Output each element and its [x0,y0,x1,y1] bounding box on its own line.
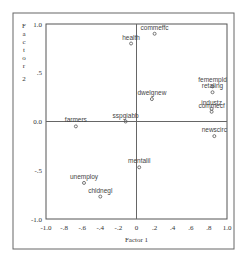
y-tick-label: .5 [37,69,43,77]
x-tick-label: .8 [206,224,212,232]
point-label: commeffc [141,24,170,31]
data-point: newscirc [202,126,228,138]
x-tick-label: -.6 [78,224,86,232]
circle-marker-icon [138,166,141,169]
data-point: dwelgnew [137,89,166,101]
x-tick-label: -.2 [115,224,123,232]
y-axis-title-char: t [23,46,25,54]
point-label: mentalil [128,157,151,164]
data-point: retaling [202,82,224,94]
x-tick-label: .6 [188,224,194,232]
y-tick-label: -1.0 [31,216,43,224]
data-point: chldnegl [88,187,113,199]
circle-marker-icon [211,91,214,94]
x-axis-title: Factor 1 [125,236,149,244]
point-label: dwelgnew [137,89,166,97]
x-tick-label: -1.0 [40,224,52,232]
point-label: unemploy [70,173,99,181]
circle-marker-icon [99,195,102,198]
data-point: commecf [198,102,225,114]
circle-marker-icon [83,181,86,184]
circle-marker-icon [150,98,153,101]
y-tick-label: -.5 [34,167,42,175]
data-point: health [122,34,140,46]
y-tick-label: 0.0 [33,118,42,126]
x-tick-label: 0 [135,224,139,232]
circle-marker-icon [74,125,77,128]
data-point: commeffc [141,24,170,36]
x-tick-label: -.4 [97,224,105,232]
point-label: health [122,34,140,41]
y-axis-title: Factor2 [22,22,26,83]
y-axis-title-char: F [22,22,26,30]
factor-plot: -1.0-.8-.6-.4-.20.2.4.6.81.0 1.0.50.0-.5… [0,0,250,265]
y-tick-label: 1.0 [33,21,42,29]
y-axis-title-char: a [22,30,26,38]
circle-marker-icon [153,32,156,35]
y-axis-ticks: 1.0.50.0-.5-1.0 [31,21,43,224]
x-axis-ticks: -1.0-.8-.6-.4-.20.2.4.6.81.0 [40,224,231,232]
x-tick-label: .4 [170,224,176,232]
point-label: farmers [65,116,88,123]
data-point: mentalil [128,157,151,169]
y-axis-title-char: c [22,38,25,46]
x-tick-label: -.8 [60,224,68,232]
x-tick-label: 1.0 [223,224,232,232]
data-point: unemploy [70,173,99,185]
y-axis-title-char: r [23,62,26,70]
data-points: healthcommeffcdwelgnewfemempldretalingin… [65,24,228,198]
point-label: retaling [202,82,224,90]
circle-marker-icon [213,135,216,138]
point-label: chldnegl [88,187,113,195]
x-tick-label: .2 [152,224,158,232]
point-label: sspgiabb [113,112,139,120]
circle-marker-icon [130,42,133,45]
data-point: farmers [65,116,88,128]
point-label: newscirc [202,126,228,133]
point-label: commecf [198,102,225,109]
y-axis-title-char: 2 [22,75,26,83]
y-axis-title-char: o [22,54,26,62]
